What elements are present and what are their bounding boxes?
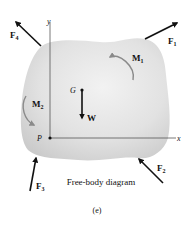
force-f4-label: F4 xyxy=(10,30,19,41)
free-body-diagram: y x P F4 F1 M1 G W M2 F3 F2 Free-body di… xyxy=(0,0,191,225)
rigid-body xyxy=(21,38,170,160)
figure-label: (e) xyxy=(93,206,102,215)
force-f1-label: F1 xyxy=(168,36,177,47)
x-axis-label: x xyxy=(176,134,181,143)
force-f4-arrow-icon xyxy=(16,22,41,46)
force-f3-label: F3 xyxy=(36,181,45,192)
diagram-caption: Free-body diagram xyxy=(67,177,136,187)
center-of-gravity-label: G xyxy=(70,86,76,95)
y-axis-label: y xyxy=(46,17,51,26)
point-p xyxy=(48,136,51,139)
weight-label: W xyxy=(87,113,96,123)
force-f2-label: F2 xyxy=(157,163,166,174)
point-p-label: P xyxy=(36,134,42,143)
